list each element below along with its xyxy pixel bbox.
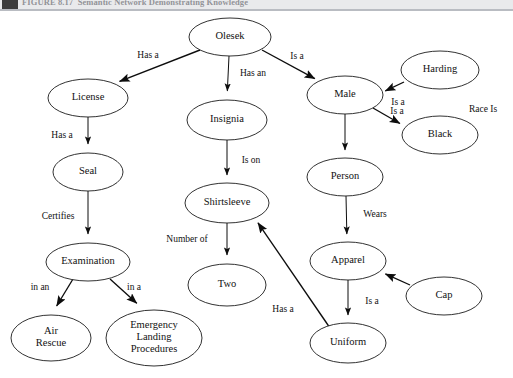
node-seal[interactable]: Seal [53,153,123,191]
edge-license-seal: Has a [51,117,88,144]
node-label: Harding [423,63,458,74]
node-label: Emergency [130,319,178,330]
edge-label: in a [127,282,142,292]
node-shirtsleeve[interactable]: Shirtsleeve [185,183,269,223]
node-label: Shirtsleeve [204,196,251,207]
edge-label: Certifies [42,211,75,221]
node-label: Cap [436,289,453,300]
edge-line [227,56,229,91]
edge-harding-male: Is a [385,82,405,107]
node-label: License [72,91,105,102]
node-label: Apparel [331,254,365,265]
edge-label: Has a [137,50,159,60]
node-label: Olesek [215,30,245,41]
edge-person-apparel: Wears [346,196,387,234]
node-apparel[interactable]: Apparel [310,242,386,280]
edge-label: in an [31,282,50,292]
edge-examination-air: in an [31,279,73,306]
edge-label: Is on [242,155,261,165]
node-label: Rescue [36,337,67,348]
edge-olesek-license: Has a [120,50,200,81]
node-olesek[interactable]: Olesek [189,18,271,56]
edge-label: Has an [240,68,266,78]
edge-label: Wears [363,209,387,219]
edge-line [262,50,315,79]
edge-shirtsleeve-two: Number of [166,223,227,255]
node-label: Seal [79,165,97,176]
node-male[interactable]: Male [307,76,383,114]
node-uniform[interactable]: Uniform [310,323,386,363]
node-label: Procedures [131,343,178,354]
node-label: Black [428,128,453,139]
edge-insignia-shirtsleeve: Is on [227,140,261,175]
edge-line [120,50,200,81]
edge-olesek-insignia: Has an [227,56,266,91]
edge-examination-emergency: in a [110,279,142,303]
figure-page: FIGURE 8.17 Semantic Network Demonstrati… [0,0,513,378]
edge-line [346,196,347,234]
edge-male-black: Is a [373,106,405,123]
node-examination[interactable]: Examination [46,243,130,281]
node-label: Male [334,88,356,99]
edge-apparel-uniform: Is a [348,280,380,315]
free-label-race-is: Race Is [469,104,498,114]
node-emergency[interactable]: EmergencyLandingProcedures [106,310,202,366]
edge-label: Has a [51,130,73,140]
node-harding[interactable]: Harding [401,51,479,89]
node-label: Landing [137,331,173,342]
node-label: Insignia [210,113,244,124]
edge-olesek-male: Is a [262,50,315,79]
node-person[interactable]: Person [307,158,383,196]
node-air-rescue[interactable]: AirRescue [11,315,91,361]
node-license[interactable]: License [48,79,128,117]
node-two[interactable]: Two [188,264,266,306]
edge-uniform-shirtsleeve: Has a [258,223,330,328]
edge-line [258,223,330,328]
node-cap[interactable]: Cap [406,277,482,315]
semantic-network-diagram: Has aHas anIs aHas aCertifiesin anin aIs… [0,0,513,378]
node-label: Two [218,278,237,289]
edge-cap-apparel [385,274,410,285]
free-labels-layer: Race Is [469,104,498,114]
node-label: Air [44,325,59,336]
edge-label: Is a [365,296,379,306]
node-insignia[interactable]: Insignia [187,100,267,140]
edge-label: Has a [272,304,294,314]
edge-label: Number of [166,234,208,244]
edge-line [385,274,410,285]
edge-label: Is a [390,106,404,116]
node-label: Examination [61,255,115,266]
node-label: Uniform [330,336,366,347]
node-black[interactable]: Black [402,116,478,154]
edge-line [385,82,404,91]
node-label: Person [331,170,360,181]
edge-seal-examination: Certifies [42,191,88,234]
edge-line [57,279,73,306]
edge-label: Is a [290,51,304,61]
